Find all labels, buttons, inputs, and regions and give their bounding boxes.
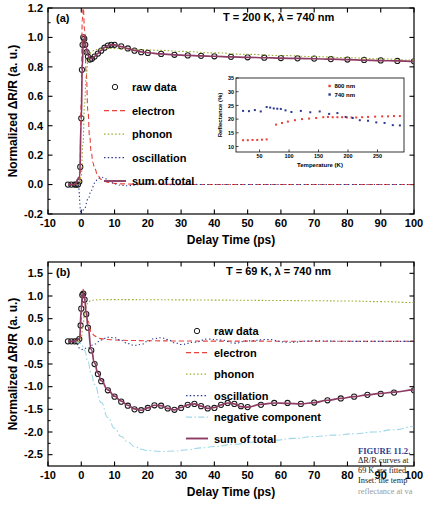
inset-data-point (322, 116, 324, 118)
x-tick-label: 20 (142, 469, 154, 481)
y-tick-label: 0.4 (28, 120, 44, 132)
y-tick-label: -0.5 (24, 358, 43, 370)
inset-legend-marker (328, 93, 330, 95)
inset-data-point (248, 110, 250, 112)
panel-b-panel-label: (b) (56, 266, 70, 278)
inset-data-point (355, 116, 357, 118)
x-tick-label: 60 (275, 469, 287, 481)
inset-data-point (387, 115, 389, 117)
inset-data-point (375, 121, 377, 123)
legend-label: raw data (214, 325, 260, 337)
x-tick-label: 30 (175, 217, 187, 229)
inset-data-point (392, 124, 394, 126)
x-tick-label: 10 (108, 469, 120, 481)
inset-data-point (399, 124, 401, 126)
y-tick-label: 1.5 (28, 267, 43, 279)
y-tick-label: 0.8 (28, 61, 43, 73)
legend-label: oscillation (132, 152, 187, 164)
inset-y-tick-label: 20 (228, 116, 234, 122)
x-tick-label: 50 (242, 469, 254, 481)
y-tick-label: 1.0 (28, 290, 43, 302)
x-tick-label: 0 (78, 217, 84, 229)
y-tick-label: 1.2 (28, 2, 43, 14)
inset-data-point (266, 138, 268, 140)
x-tick-label: 40 (208, 469, 220, 481)
panel-a-yaxis-label: Normalized ΔR/R (a. u.) (6, 45, 20, 178)
x-tick-label: 80 (341, 469, 353, 481)
inset-data-point (273, 107, 275, 109)
inset-x-tick-label: 250 (373, 153, 382, 159)
inset-data-point (332, 116, 334, 118)
inset-data-point (300, 110, 302, 112)
x-tick-label: 90 (375, 217, 387, 229)
inset-y-tick-label: 25 (228, 103, 234, 109)
x-tick-label: 10 (108, 217, 120, 229)
inset-data-point (393, 115, 395, 117)
inset-data-point (399, 115, 401, 117)
inset-data-point (290, 111, 292, 113)
caption-title: FIGURE 11.2. (358, 446, 429, 456)
inset-data-point (281, 122, 283, 124)
inset-data-point (285, 109, 287, 111)
inset-data-point (276, 108, 278, 110)
panel-a-panel-label: (a) (56, 12, 70, 24)
inset-data-point (384, 122, 386, 124)
legend-label: sum of total (214, 433, 276, 445)
inset-data-point (294, 119, 296, 121)
inset-data-point (266, 106, 268, 108)
y-tick-label: 0.0 (28, 335, 43, 347)
inset-legend-marker (328, 85, 330, 87)
panel-a-condition-title: T = 200 K, λ = 740 nm (223, 11, 335, 23)
legend-label: raw data (132, 81, 178, 93)
x-tick-label: 30 (175, 469, 187, 481)
x-tick-label: 100 (405, 217, 423, 229)
panel-b-yaxis-label: Normalized ΔR/R (a. u.) (6, 298, 20, 431)
legend-label: phonon (132, 128, 173, 140)
inset-data-point (287, 121, 289, 123)
legend-label: negative component (214, 411, 321, 423)
x-tick-label: 50 (242, 217, 254, 229)
inset-data-point (242, 139, 244, 141)
inset-xaxis-label: Temperature (K) (297, 162, 343, 168)
inset-yaxis-label: Reflectance (%) (217, 93, 223, 138)
y-tick-label: 1.0 (28, 31, 43, 43)
y-tick-label: 0.0 (28, 178, 43, 190)
figure-container: -100102030405060708090100-0.20.00.20.40.… (0, 0, 429, 514)
panel-b-xaxis-label: Delay Time (ps) (187, 485, 275, 499)
y-tick-label: -0.2 (24, 208, 43, 220)
inset-x-tick-label: 100 (285, 153, 294, 159)
inset-data-point (327, 116, 329, 118)
inset-data-point (381, 115, 383, 117)
inset-data-point (336, 116, 338, 118)
inset-data-point (247, 139, 249, 141)
x-tick-label: -10 (40, 469, 56, 481)
y-tick-label: 0.5 (28, 312, 43, 324)
inset-data-point (308, 118, 310, 120)
legend-label: phonon (214, 368, 255, 380)
y-tick-label: 0.6 (28, 90, 43, 102)
inset-data-point (319, 110, 321, 112)
inset-data-point (328, 113, 330, 115)
panel-a-xaxis-label: Delay Time (ps) (187, 233, 275, 247)
inset-data-point (336, 112, 338, 114)
inset-data-point (301, 118, 303, 120)
x-tick-label: 20 (142, 217, 154, 229)
y-tick-label: -1.0 (24, 380, 43, 392)
panel-b-condition-title: T = 69 K, λ = 740 nm (226, 265, 331, 277)
figure-caption: FIGURE 11.2. ΔR/R curves at 69 K are fit… (358, 446, 429, 514)
inset-data-point (361, 116, 363, 118)
inset-y-tick-label: 10 (228, 144, 234, 150)
x-tick-label: 70 (308, 217, 320, 229)
inset-data-point (367, 116, 369, 118)
y-tick-label: -2.5 (24, 448, 43, 460)
inset-data-point (280, 108, 282, 110)
inset-legend-label: 740 nm (334, 92, 355, 98)
caption-line-3: reflectance at va (358, 487, 429, 497)
inset-data-point (367, 120, 369, 122)
legend-label: sum of total (132, 175, 194, 187)
caption-line-0: ΔR/R curves at (358, 456, 429, 466)
inset-data-point (242, 110, 244, 112)
legend-label: oscillation (214, 390, 269, 402)
inset-frame (236, 78, 404, 152)
caption-line-2: Inset: the temp (358, 476, 429, 486)
